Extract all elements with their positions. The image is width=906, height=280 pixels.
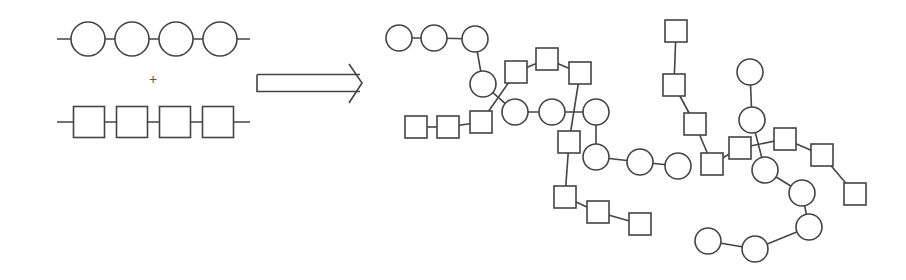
circle-monomer (159, 22, 193, 56)
square-monomer (663, 74, 685, 96)
circle-monomer (695, 228, 721, 254)
circle-monomer (789, 180, 815, 206)
circle-monomer (421, 25, 447, 51)
circle-monomer (583, 99, 609, 125)
circle-monomer (539, 99, 565, 125)
square-monomer (74, 107, 105, 138)
plus-sign: + (149, 71, 157, 87)
square-monomer (117, 107, 148, 138)
circle-monomer (203, 22, 237, 56)
square-monomer (665, 20, 687, 42)
circle-monomer (742, 236, 768, 262)
square-monomer (203, 107, 234, 138)
square-monomer (160, 107, 191, 138)
circle-homopolymer-chain (57, 22, 250, 56)
square-monomer (811, 144, 833, 166)
circle-monomer (665, 153, 691, 179)
circle-monomer (583, 144, 609, 170)
square-monomer (470, 111, 492, 133)
square-monomer (569, 62, 591, 84)
square-monomer (437, 116, 459, 138)
square-monomer (774, 128, 796, 150)
square-monomer (536, 48, 558, 70)
circle-monomer (470, 71, 496, 97)
square-monomer (558, 131, 580, 153)
square-monomer (701, 153, 723, 175)
circle-monomer (71, 22, 105, 56)
circle-monomer (739, 107, 765, 133)
reaction-arrow-icon (257, 64, 362, 103)
circle-monomer (386, 25, 412, 51)
circle-monomer (796, 214, 822, 240)
circle-monomer (627, 149, 653, 175)
copolymer-network (386, 20, 866, 262)
square-monomer (684, 113, 706, 135)
square-monomer (587, 201, 609, 223)
square-monomer (729, 137, 751, 159)
circle-monomer (502, 99, 528, 125)
square-homopolymer-chain (57, 107, 250, 138)
circle-monomer (115, 22, 149, 56)
square-monomer (844, 183, 866, 205)
square-monomer (505, 61, 527, 83)
circle-monomer (462, 26, 488, 52)
square-monomer (629, 213, 651, 235)
square-monomer (405, 116, 427, 138)
square-monomer (554, 186, 576, 208)
circle-monomer (752, 157, 778, 183)
diagram-canvas: + (0, 0, 906, 280)
copolymerization-diagram: + (0, 0, 906, 280)
circle-monomer (737, 59, 763, 85)
